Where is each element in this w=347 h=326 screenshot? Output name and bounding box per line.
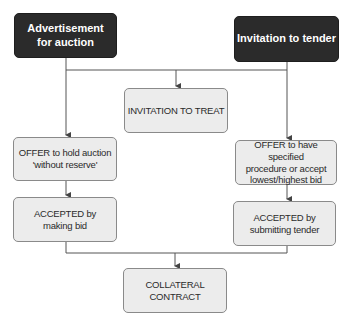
node-invitation-to-treat: INVITATION TO TREAT: [124, 88, 228, 133]
node-label-line: OFFER to have specified: [236, 139, 336, 163]
node-label-line: COLLATERAL: [145, 279, 204, 291]
node-label-line: CONTRACT: [145, 291, 204, 303]
node-label-line: for auction: [27, 36, 103, 50]
node-label: Invitation to tender: [237, 32, 336, 46]
node-label-line: OFFER to hold auction: [19, 147, 111, 159]
node-label-line: ACCEPTED by: [34, 208, 96, 220]
node-label-line: making bid: [34, 220, 96, 232]
node-collateral-contract: COLLATERAL CONTRACT: [123, 268, 227, 313]
node-accepted-by-bid: ACCEPTED by making bid: [13, 197, 117, 242]
node-advertisement-for-auction: Advertisement for auction: [14, 13, 117, 58]
node-offer-tender: OFFER to have specified procedure or acc…: [235, 140, 337, 185]
node-label-line: Advertisement: [27, 22, 103, 36]
node-label-line: lowest/highest bid: [236, 174, 336, 186]
node-offer-auction: OFFER to hold auction 'without reserve': [13, 137, 117, 181]
node-label-line: 'without reserve': [19, 159, 111, 171]
node-label-line: ACCEPTED by: [250, 212, 319, 224]
node-label-line: submitting tender: [250, 224, 319, 236]
node-label: INVITATION TO TREAT: [128, 105, 225, 117]
node-invitation-to-tender: Invitation to tender: [234, 16, 339, 62]
node-label-line: procedure or accept: [236, 163, 336, 175]
node-accepted-by-tender: ACCEPTED by submitting tender: [233, 201, 336, 246]
